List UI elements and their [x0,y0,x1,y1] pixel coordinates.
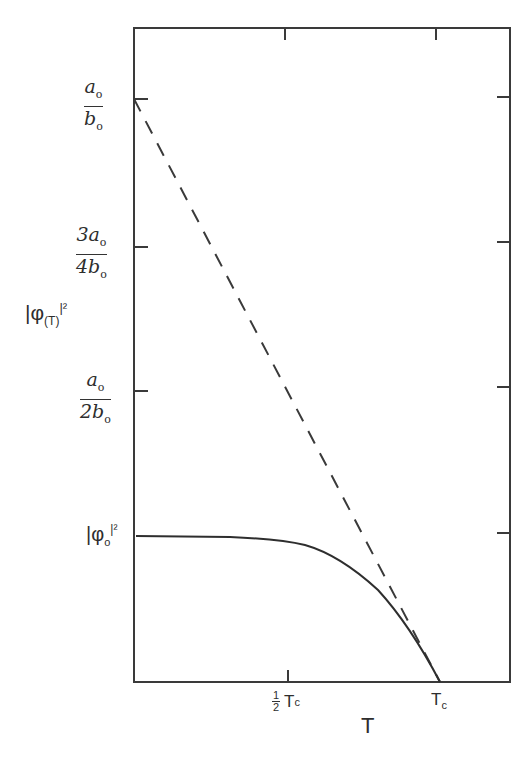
y-axis-title: |φ(T)|² [25,300,67,328]
ytick-ao-2bo: ao 2bo [80,369,111,430]
dashed-line-series [134,99,440,682]
plot-frame [134,28,510,682]
xtick-tc: Tc [431,690,447,711]
ytick-ao-bo: ao bo [84,76,103,137]
ytick-phi0-squared: |φo|² [86,522,117,548]
x-axis-title: T [361,713,374,739]
solid-curve-series [136,536,440,682]
xtick-half-tc: 1 2 Tc [272,690,300,713]
cropped-caption [20,0,280,4]
ytick-3ao-4bo: 3ao 4bo [76,224,107,285]
